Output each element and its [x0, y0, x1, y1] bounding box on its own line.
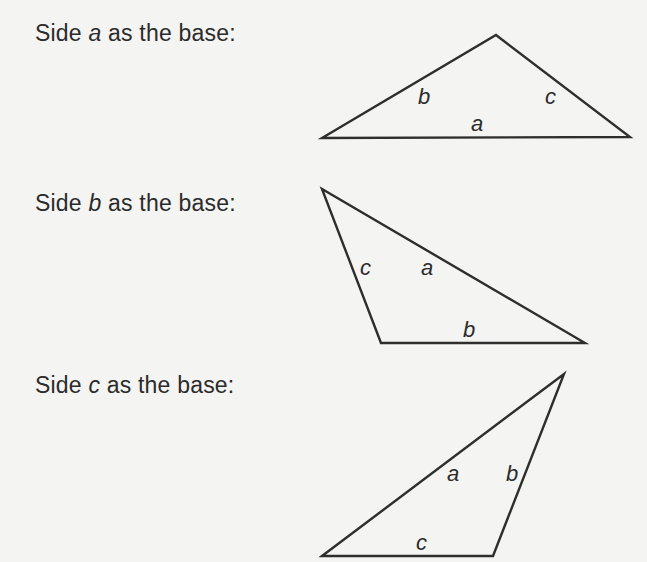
side-label-c: c — [545, 84, 556, 109]
side-label-b: b — [506, 461, 518, 486]
side-label-c: c — [360, 255, 371, 280]
triangle-shape — [322, 374, 564, 556]
side-label-a: a — [421, 255, 433, 280]
side-label-b: b — [463, 317, 475, 342]
triangles-diagram: b c a c a b a b c — [0, 0, 647, 562]
triangle-base-a: b c a — [322, 35, 630, 138]
triangle-base-c: a b c — [322, 374, 564, 556]
side-label-b: b — [418, 84, 430, 109]
side-label-a: a — [447, 461, 459, 486]
side-label-a: a — [471, 111, 483, 136]
side-label-c: c — [416, 530, 427, 555]
triangle-base-b: c a b — [322, 189, 585, 343]
